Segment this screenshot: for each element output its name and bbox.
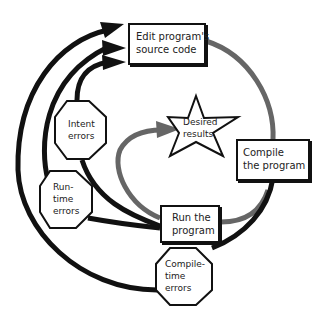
arrowhead-compile-errors-icon bbox=[100, 22, 124, 38]
program-development-cycle-diagram: Edit program's source code Compile the p… bbox=[0, 0, 316, 324]
intent-errors-label: Intent errors bbox=[68, 118, 95, 142]
edit-source-code-label: Edit program's source code bbox=[136, 30, 209, 56]
arrowhead-runtime-errors-icon bbox=[102, 40, 126, 56]
runtime-errors-label: Run- time errors bbox=[53, 181, 79, 217]
run-program-label: Run the program bbox=[172, 211, 215, 237]
compile-program-label: Compile the program bbox=[243, 146, 305, 172]
desired-results-label: Desired results bbox=[183, 116, 217, 140]
edge-compile-to-compile-errors bbox=[212, 178, 273, 248]
edge-run-to-desired bbox=[118, 130, 162, 218]
compile-errors-label: Compile- time errors bbox=[165, 258, 205, 294]
arrowhead-intent-errors-icon bbox=[102, 55, 126, 70]
